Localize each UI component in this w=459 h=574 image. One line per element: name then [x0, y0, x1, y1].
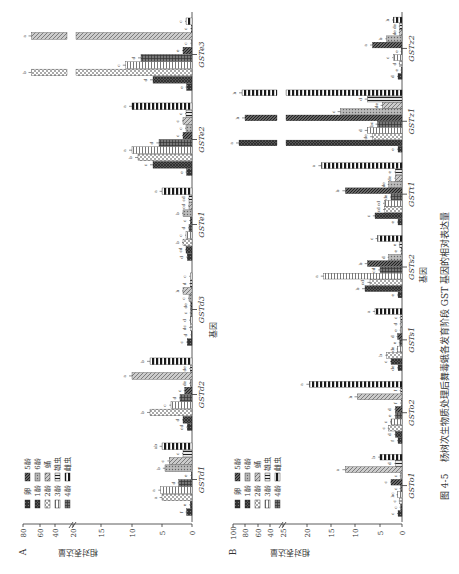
category-label: GSTs2 — [407, 254, 416, 280]
significance-letter: de — [392, 23, 397, 29]
legend-label: 卵 — [23, 488, 32, 495]
significance-letter: c — [181, 297, 186, 300]
significance-letter: d — [392, 62, 397, 65]
significance-letter: f — [179, 511, 184, 513]
panel-b: 0510152025406080100相对表达量BcccbccccadbGSTo… — [228, 12, 428, 558]
bar — [191, 472, 192, 479]
bar — [186, 232, 192, 239]
legend-swatch — [245, 473, 250, 481]
significance-letter: d — [393, 323, 398, 326]
figure-4-5: 05101520406080相对表达量AfeaadebccabGSTd1cddb… — [0, 0, 459, 574]
bar — [190, 217, 192, 224]
significance-letter: b — [358, 262, 363, 265]
category-label: GSTz1 — [407, 108, 416, 135]
bar-group-GSTz2: dedceabdedebGSTz2 — [363, 17, 416, 79]
legend-swatch — [245, 500, 250, 508]
bar — [401, 388, 402, 394]
bar — [401, 321, 402, 327]
significance-letter: e — [183, 474, 188, 477]
bar — [183, 132, 192, 139]
significance-letter: cd — [376, 201, 381, 206]
bar — [395, 175, 402, 181]
bar — [187, 84, 192, 91]
significance-letter: de — [381, 182, 386, 188]
bar — [187, 254, 192, 261]
category-label: GSTe3 — [197, 41, 206, 67]
significance-letter: e — [179, 86, 184, 89]
significance-letter: d — [181, 226, 186, 229]
significance-letter: e — [182, 503, 187, 506]
significance-letter: c — [383, 360, 388, 363]
significance-letter: e — [179, 171, 184, 174]
bar — [389, 254, 402, 260]
bar — [183, 288, 192, 295]
y-tick-label: 40 — [52, 529, 60, 538]
bar — [378, 121, 403, 127]
legend-label: 蛹 — [43, 461, 52, 468]
y-tick-label: 20 — [70, 529, 78, 538]
significance-letter: a — [153, 190, 158, 193]
significance-letter: de — [390, 346, 395, 352]
significance-letter: a — [122, 149, 127, 152]
significance-letter: a — [335, 468, 340, 471]
bar — [186, 125, 192, 132]
category-label: GSTd3 — [197, 296, 206, 323]
legend-label: 2龄 — [43, 485, 52, 496]
bar — [398, 438, 402, 444]
legend-swatch — [275, 473, 280, 481]
legend-swatch — [235, 473, 240, 481]
bar — [190, 280, 192, 287]
category-label: GSTe2 — [197, 126, 206, 152]
figure-caption: 图 4-5杨树次生物质处理后舞毒蛾各发育阶段 GST 基因的相对表达量 — [439, 212, 450, 500]
significance-letter: de — [374, 103, 379, 109]
bar — [401, 486, 402, 492]
bar — [191, 40, 192, 47]
significance-letter: c — [182, 219, 187, 222]
legend: 卵1龄2龄3龄4龄5龄6龄蛹雄虫雌虫 — [233, 457, 282, 508]
significance-letter: d — [143, 78, 148, 81]
legend-label: 2龄 — [253, 485, 262, 496]
significance-letter: e — [393, 250, 398, 253]
bar — [365, 286, 402, 292]
significance-letter: b — [175, 241, 180, 244]
significance-letter: b — [385, 19, 390, 22]
significance-letter: f — [393, 390, 398, 392]
bar — [395, 413, 402, 419]
significance-letter: c — [116, 64, 121, 67]
bar — [183, 450, 192, 457]
bar-chart-figure: 05101520406080相对表达量AfeaadebccabGSTd1cddb… — [0, 0, 459, 574]
significance-letter: de — [183, 303, 188, 309]
legend-swatch — [65, 473, 70, 481]
bar — [126, 62, 192, 69]
significance-letter: de — [392, 30, 397, 36]
significance-letter: c — [179, 341, 184, 344]
legend-swatch — [265, 473, 270, 481]
significance-letter: a — [314, 275, 319, 278]
bar — [138, 154, 192, 161]
significance-letter: cd — [376, 207, 381, 212]
bar — [169, 458, 192, 465]
legend-swatch — [45, 473, 50, 481]
significance-letter: c — [383, 481, 388, 484]
bar — [187, 339, 192, 346]
significance-letter: e — [392, 341, 397, 344]
bar — [190, 324, 192, 331]
bar — [401, 248, 402, 254]
legend-label: 5龄 — [23, 458, 32, 469]
bar — [401, 473, 402, 479]
bar — [380, 267, 402, 273]
significance-letter: c — [143, 163, 148, 166]
bar-group-GSTe3: edbcdecaccGSTe3 — [22, 18, 207, 91]
significance-letter: d — [381, 256, 386, 259]
bar — [141, 55, 192, 62]
legend-label: 4龄 — [273, 485, 282, 496]
legend-label: 1龄 — [243, 485, 252, 496]
bar — [190, 380, 192, 387]
y-tick-label: 10 — [129, 529, 137, 538]
significance-letter: c — [175, 119, 180, 122]
bar — [191, 25, 192, 32]
significance-letter: c — [393, 474, 398, 477]
bar — [400, 340, 402, 346]
significance-letter: cd — [371, 267, 376, 272]
bar — [153, 161, 192, 168]
